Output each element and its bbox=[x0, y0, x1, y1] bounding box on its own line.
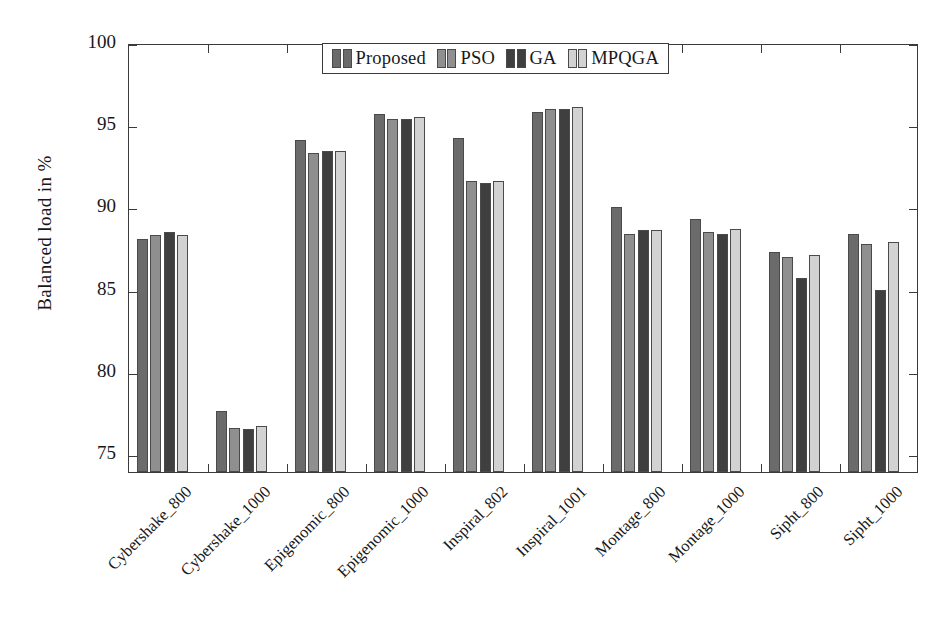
legend-swatch-icon bbox=[332, 49, 341, 68]
legend-swatch-icon-secondary bbox=[517, 49, 526, 68]
chart-legend: ProposedPSOGAMPQGA bbox=[322, 43, 669, 74]
legend-label: Proposed bbox=[356, 48, 426, 69]
bar-chart-figure: Balanced load in % 7580859095100 Cybersh… bbox=[0, 0, 950, 631]
legend-swatch-icon bbox=[568, 49, 577, 68]
legend-entry-pso: PSO bbox=[437, 48, 495, 69]
legend-entry-proposed: Proposed bbox=[332, 48, 426, 69]
legend-swatch-icon bbox=[506, 49, 515, 68]
legend-entry-ga: GA bbox=[506, 48, 557, 69]
legend-swatch-icon-secondary bbox=[578, 49, 587, 68]
legend-swatch-icon bbox=[437, 49, 446, 68]
legend-entry-mpqga: MPQGA bbox=[568, 48, 659, 69]
legend-label: PSO bbox=[460, 48, 495, 69]
x-axis-tick-labels: Cybershake_800Cybershake_1000Epigenomic_… bbox=[0, 0, 950, 631]
legend-swatch-icon-secondary bbox=[343, 49, 352, 68]
legend-label: GA bbox=[530, 48, 557, 69]
legend-label: MPQGA bbox=[591, 48, 659, 69]
legend-swatch-icon-secondary bbox=[447, 49, 456, 68]
